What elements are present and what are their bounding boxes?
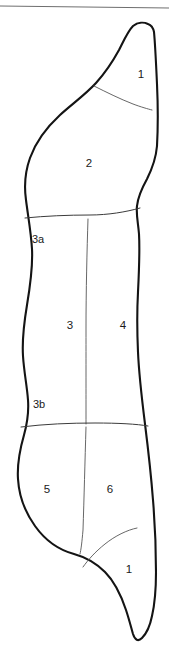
region-label-1-bottom: 1 <box>126 563 132 575</box>
diagram-canvas: 1 2 3a 3 4 3b 5 6 1 <box>0 0 170 651</box>
region-label-1-top: 1 <box>138 68 144 80</box>
region-label-2: 2 <box>86 157 92 169</box>
region-label-3: 3 <box>67 319 73 331</box>
region-label-3b: 3b <box>33 398 45 410</box>
region-label-3a: 3a <box>32 233 45 245</box>
horizontal-rule <box>0 6 169 8</box>
body-outline <box>18 23 158 640</box>
region-label-6: 6 <box>107 483 113 495</box>
region-label-5: 5 <box>44 483 50 495</box>
region-label-4: 4 <box>120 319 127 331</box>
body-region-diagram: 1 2 3a 3 4 3b 5 6 1 <box>0 0 170 651</box>
